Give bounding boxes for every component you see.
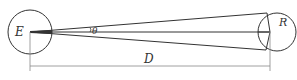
lower-sight-line: [30, 32, 266, 50]
r-chord-upper: [267, 13, 270, 32]
label-theta: θ: [92, 27, 97, 36]
upper-sight-line: [30, 13, 267, 32]
converging-lines: [30, 30, 52, 34]
theta-arc: [90, 28, 91, 33]
label-d: D: [144, 53, 154, 65]
diagram-canvas: [0, 0, 297, 80]
label-e: E: [15, 26, 24, 38]
label-r: R: [279, 17, 287, 28]
r-chord-lower: [266, 32, 270, 50]
